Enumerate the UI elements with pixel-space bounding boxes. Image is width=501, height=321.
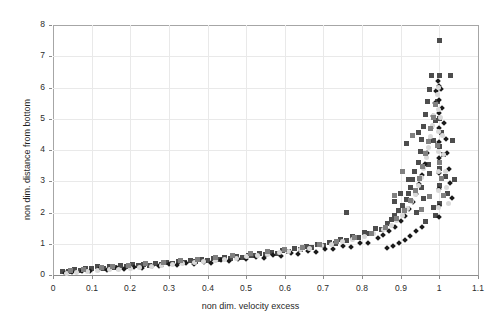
data-point [143, 261, 148, 266]
y-tick-mark [49, 244, 52, 245]
data-point [435, 92, 440, 97]
data-point [441, 193, 446, 198]
x-tick-mark [169, 276, 170, 279]
data-point [126, 263, 131, 268]
data-point [408, 198, 413, 203]
data-point [413, 192, 418, 197]
x-tick-label: 1.1 [458, 283, 498, 293]
data-point [352, 235, 357, 240]
data-point [398, 191, 403, 196]
data-point [419, 137, 424, 142]
x-tick-mark [130, 276, 131, 279]
data-point [427, 87, 432, 92]
x-tick-label: 0.5 [226, 283, 266, 293]
data-point [392, 193, 397, 198]
data-point [429, 73, 434, 78]
y-tick-mark [49, 119, 52, 120]
data-point [423, 151, 428, 156]
data-point [383, 225, 388, 230]
x-tick-label: 0.3 [149, 283, 189, 293]
data-point [418, 149, 423, 154]
x-tick-label: 0.1 [72, 283, 112, 293]
data-point [149, 264, 154, 269]
x-tick-label: 1 [419, 283, 459, 293]
data-point [277, 250, 282, 255]
y-tick-label: 6 [19, 82, 45, 92]
data-point [116, 267, 121, 272]
gridline-horizontal [53, 150, 478, 151]
data-point [450, 138, 455, 143]
data-point [99, 265, 104, 270]
x-tick-label: 0.7 [303, 283, 343, 293]
data-point [410, 133, 415, 138]
data-point [427, 171, 432, 176]
x-tick-mark [323, 276, 324, 279]
data-point [344, 210, 349, 215]
data-point [394, 216, 399, 221]
data-point [437, 160, 442, 165]
data-point [404, 141, 409, 146]
data-point [265, 249, 270, 254]
data-point [419, 207, 424, 212]
data-point [68, 268, 73, 273]
x-tick-label: 0.9 [381, 283, 421, 293]
data-point [406, 191, 411, 196]
data-point [110, 264, 115, 269]
data-point [437, 38, 442, 43]
x-tick-mark [208, 276, 209, 279]
y-tick-mark [49, 88, 52, 89]
data-point [300, 245, 305, 250]
y-tick-label: 7 [19, 50, 45, 60]
data-point [433, 102, 438, 107]
data-point [439, 176, 444, 181]
data-point [412, 169, 417, 174]
gridline-horizontal [53, 88, 478, 89]
y-tick-mark [49, 25, 52, 26]
x-tick-mark [478, 276, 479, 279]
data-point [414, 210, 419, 215]
x-tick-label: 0.2 [110, 283, 150, 293]
data-point [161, 260, 166, 265]
data-point [389, 223, 394, 228]
data-point [420, 164, 425, 169]
data-point [438, 115, 443, 120]
data-point [334, 239, 339, 244]
x-tick-mark [246, 276, 247, 279]
data-point [282, 247, 287, 252]
data-point [446, 201, 451, 206]
data-point [421, 196, 426, 201]
data-point [402, 208, 407, 213]
y-tick-mark [49, 56, 52, 57]
data-point [406, 177, 411, 182]
x-tick-mark [53, 276, 54, 279]
x-tick-label: 0.4 [188, 283, 228, 293]
x-tick-mark [362, 276, 363, 279]
data-point [392, 199, 397, 204]
data-point [427, 194, 432, 199]
data-point [428, 126, 433, 131]
y-axis-title: non dim. distance from bottom [22, 99, 32, 220]
data-point [426, 145, 431, 150]
data-point [425, 99, 430, 104]
data-point [195, 257, 200, 262]
data-point [426, 139, 431, 144]
data-point [431, 115, 436, 120]
data-point [436, 85, 441, 90]
data-point [362, 234, 367, 239]
data-point [435, 143, 440, 148]
gridline-horizontal [53, 56, 478, 57]
data-point [74, 270, 79, 275]
x-tick-mark [439, 276, 440, 279]
data-point [329, 242, 334, 247]
data-point [413, 188, 418, 193]
data-point [317, 242, 322, 247]
gridline-horizontal [53, 244, 478, 245]
y-tick-mark [49, 213, 52, 214]
data-point [437, 73, 442, 78]
data-point [448, 73, 453, 78]
y-tick-mark [49, 275, 52, 276]
data-point [423, 112, 428, 117]
y-tick-label: 8 [19, 19, 45, 29]
data-point [369, 231, 374, 236]
data-point [452, 177, 457, 182]
